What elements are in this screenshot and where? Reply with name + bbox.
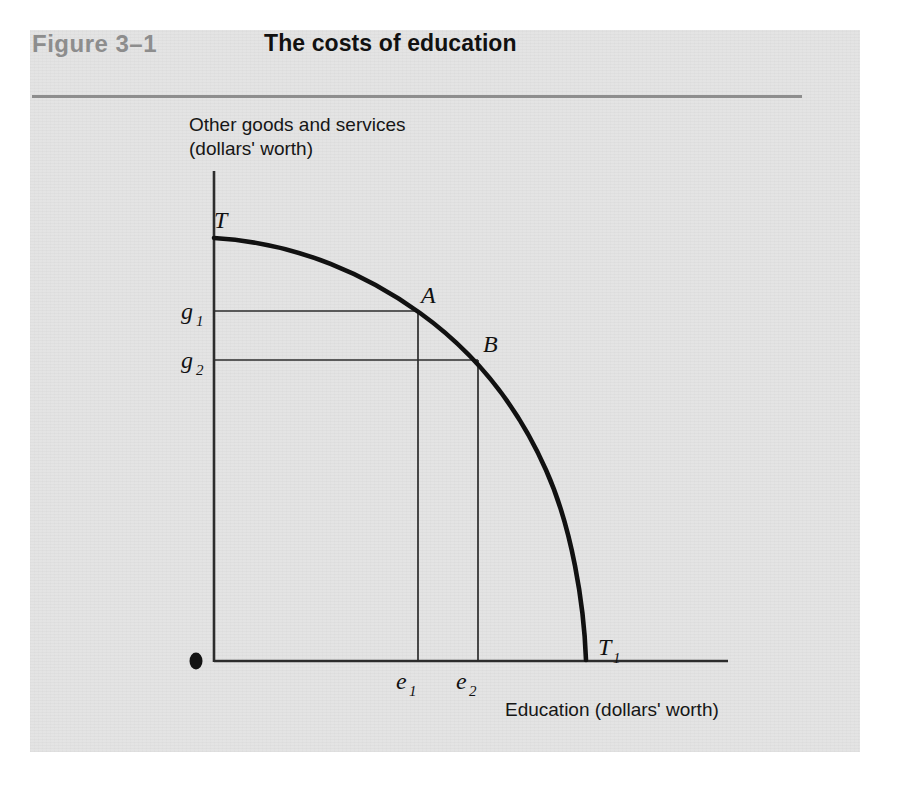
figure-page: Figure 3–1 The costs of education Other …	[0, 0, 897, 789]
y-tick-label-g1: g	[181, 298, 193, 324]
y-axis-label-line2: (dollars' worth)	[189, 138, 313, 159]
curve-label-t1-subscript: 1	[613, 650, 621, 666]
chart-area: Other goods and services (dollars' worth…	[0, 0, 897, 789]
x-axis-label: Education (dollars' worth)	[505, 699, 719, 720]
x-tick-label-e2: e	[456, 668, 467, 694]
curve-label-t: T	[214, 207, 229, 233]
x-tick-label-e2-subscript: 2	[469, 683, 477, 699]
y-tick-label-g2-subscript: 2	[196, 362, 204, 378]
y-tick-label-g1-subscript: 1	[196, 313, 204, 329]
point-label-a: A	[419, 282, 436, 308]
curve-label-t1: T	[598, 634, 613, 660]
y-tick-label-g2: g	[181, 347, 193, 373]
transformation-curve	[214, 238, 586, 660]
origin-marker	[190, 653, 203, 670]
point-label-b: B	[483, 331, 498, 357]
x-tick-label-e1-subscript: 1	[409, 683, 417, 699]
y-axis-label-line1: Other goods and services	[189, 114, 406, 135]
x-tick-label-e1: e	[396, 668, 407, 694]
ppf-chart-svg: Other goods and services (dollars' worth…	[0, 0, 897, 789]
